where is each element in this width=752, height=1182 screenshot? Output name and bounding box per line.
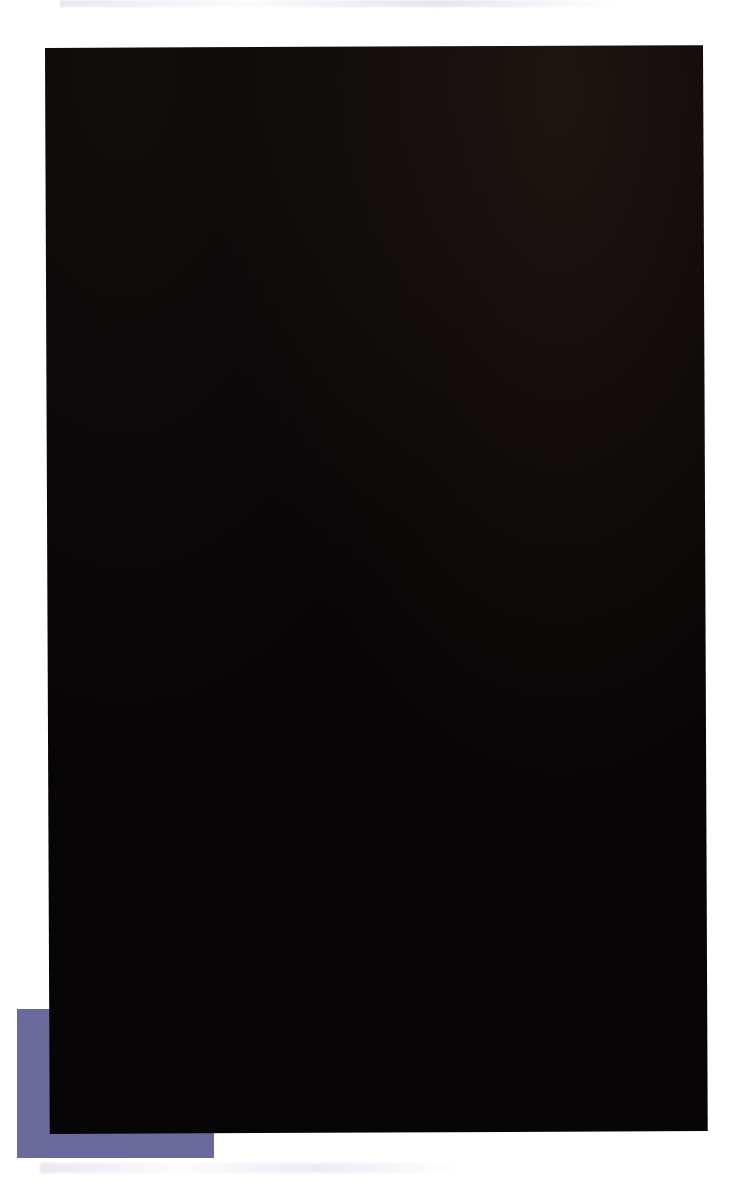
scan-artifact-bottom xyxy=(40,1163,460,1173)
spectra-plate xyxy=(45,45,708,1134)
emission-spectra-figure xyxy=(0,0,752,1182)
scan-artifact-top xyxy=(60,0,620,7)
